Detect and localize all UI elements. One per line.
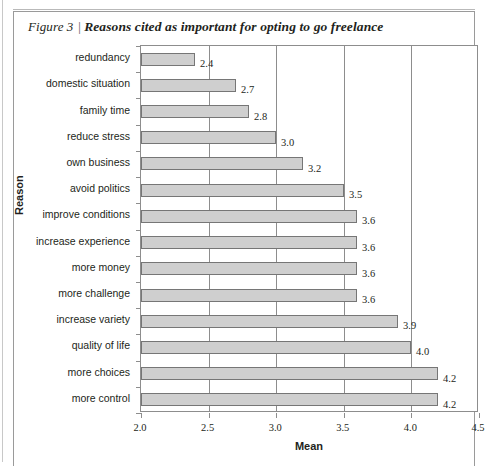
plot-area: 2.42.72.83.03.23.53.63.63.63.63.94.04.24… xyxy=(140,45,478,412)
x-axis-tick-label: 3.0 xyxy=(269,422,282,433)
x-axis-tick-label: 2.0 xyxy=(133,422,146,433)
bar-value-label: 3.6 xyxy=(362,268,375,279)
figure-number: Figure 3 xyxy=(28,19,73,34)
category-label: reduce stress xyxy=(0,130,130,142)
x-axis-tick xyxy=(344,413,345,418)
gridline xyxy=(209,46,210,411)
y-axis-tick xyxy=(136,98,141,99)
bar-value-label: 2.4 xyxy=(200,58,213,69)
category-label: own business xyxy=(0,156,130,168)
x-axis-tick-label: 2.5 xyxy=(201,422,214,433)
x-axis-tick xyxy=(141,413,142,418)
x-axis-tick xyxy=(411,413,412,418)
y-axis-tick xyxy=(136,177,141,178)
category-label: domestic situation xyxy=(0,77,130,89)
x-axis-tick xyxy=(276,413,277,418)
bar-value-label: 4.2 xyxy=(443,373,456,384)
figure-title: Reasons cited as important for opting to… xyxy=(84,19,383,34)
bar-value-label: 4.2 xyxy=(443,399,456,410)
bar-value-label: 2.7 xyxy=(241,84,254,95)
category-label: increase experience xyxy=(0,235,130,247)
x-axis-tick-label: 3.5 xyxy=(336,422,349,433)
bar xyxy=(141,393,438,406)
category-label: quality of life xyxy=(0,339,130,351)
bar-value-label: 3.6 xyxy=(362,242,375,253)
bar-value-label: 3.2 xyxy=(308,163,321,174)
bar-value-label: 3.6 xyxy=(362,215,375,226)
bar xyxy=(141,157,303,170)
x-axis-tick xyxy=(209,413,210,418)
category-label: more challenge xyxy=(0,287,130,299)
bar xyxy=(141,210,357,223)
category-label: family time xyxy=(0,104,130,116)
x-axis-tick-label: 4.5 xyxy=(471,422,484,433)
figure-caption: Figure 3|Reasons cited as important for … xyxy=(28,19,383,35)
x-axis-tick xyxy=(479,413,480,418)
y-axis-tick xyxy=(136,46,141,47)
category-label: more control xyxy=(0,392,130,404)
bar-value-label: 3.9 xyxy=(403,320,416,331)
y-axis-tick xyxy=(136,361,141,362)
category-label: increase variety xyxy=(0,313,130,325)
y-axis-tick xyxy=(136,72,141,73)
bar-value-label: 3.0 xyxy=(281,137,294,148)
bar-value-label: 3.5 xyxy=(349,189,362,200)
bar xyxy=(141,262,357,275)
bar xyxy=(141,289,357,302)
category-label: improve conditions xyxy=(0,208,130,220)
category-label: avoid politics xyxy=(0,182,130,194)
y-axis-tick xyxy=(136,282,141,283)
gridline xyxy=(276,46,277,411)
bar xyxy=(141,131,276,144)
y-axis-tick xyxy=(136,334,141,335)
bar xyxy=(141,79,236,92)
category-label: redundancy xyxy=(0,51,130,63)
bar xyxy=(141,341,411,354)
bar xyxy=(141,236,357,249)
figure-caption-separator: | xyxy=(73,19,84,34)
bar-value-label: 4.0 xyxy=(416,346,429,357)
y-axis-tick xyxy=(136,125,141,126)
y-axis-tick xyxy=(136,230,141,231)
gridline xyxy=(344,46,345,411)
page-top-rule xyxy=(13,9,475,10)
y-axis-tick xyxy=(136,151,141,152)
y-axis-tick xyxy=(136,387,141,388)
bar xyxy=(141,184,344,197)
bar xyxy=(141,315,398,328)
bar-value-label: 2.8 xyxy=(254,111,267,122)
y-axis-tick xyxy=(136,308,141,309)
bar xyxy=(141,105,249,118)
x-axis-title: Mean xyxy=(140,440,478,452)
bar-value-label: 3.6 xyxy=(362,294,375,305)
x-axis-tick-label: 4.0 xyxy=(404,422,417,433)
gridline xyxy=(411,46,412,411)
y-axis-tick xyxy=(136,256,141,257)
category-label: more money xyxy=(0,261,130,273)
y-axis-tick xyxy=(136,203,141,204)
category-label: more choices xyxy=(0,366,130,378)
bar xyxy=(141,53,195,66)
bar xyxy=(141,367,438,380)
